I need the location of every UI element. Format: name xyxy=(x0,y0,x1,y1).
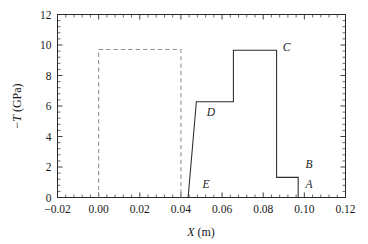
y-tick-label-3: 6 xyxy=(46,100,52,112)
point-label-c: C xyxy=(283,41,291,53)
point-label-e: E xyxy=(202,178,210,190)
chart-canvas: −0.020.000.020.040.060.080.100.12 024681… xyxy=(0,0,368,244)
x-axis-minor-ticks xyxy=(66,15,338,198)
x-tick-label-3: 0.04 xyxy=(171,203,191,215)
x-tick-label-5: 0.08 xyxy=(253,203,273,215)
series-stress-profile xyxy=(188,50,298,197)
x-tick-label-7: 0.12 xyxy=(335,203,355,215)
x-axis-major-ticks xyxy=(99,15,305,198)
figure-container: −0.020.000.020.040.060.080.100.12 024681… xyxy=(0,0,368,244)
x-axis-title: X (m) xyxy=(186,225,215,239)
series-initial-profile xyxy=(99,50,181,198)
y-axis-minor-ticks xyxy=(58,21,346,192)
y-axis-tick-labels: 024681012 xyxy=(40,9,52,204)
point-label-b: B xyxy=(305,158,312,170)
plot-frame xyxy=(58,15,346,198)
y-tick-label-0: 0 xyxy=(46,192,52,204)
x-tick-label-0: −0.02 xyxy=(44,203,71,215)
y-axis-major-ticks xyxy=(58,45,346,167)
x-tick-label-6: 0.10 xyxy=(294,203,314,215)
y-tick-label-6: 12 xyxy=(40,9,52,21)
x-tick-label-2: 0.02 xyxy=(130,203,150,215)
y-tick-label-4: 8 xyxy=(46,70,52,82)
point-label-d: D xyxy=(206,106,216,118)
point-label-a: A xyxy=(304,178,313,190)
x-tick-label-4: 0.06 xyxy=(212,203,232,215)
y-tick-label-1: 2 xyxy=(46,161,52,173)
y-tick-label-2: 4 xyxy=(46,131,52,143)
x-axis-tick-labels: −0.020.000.020.040.060.080.100.12 xyxy=(44,203,356,215)
y-tick-label-5: 10 xyxy=(40,39,52,51)
x-tick-label-1: 0.00 xyxy=(89,203,109,215)
y-axis-title: −T (GPa) xyxy=(10,83,24,128)
data-point-labels: ABCDE xyxy=(202,41,314,191)
